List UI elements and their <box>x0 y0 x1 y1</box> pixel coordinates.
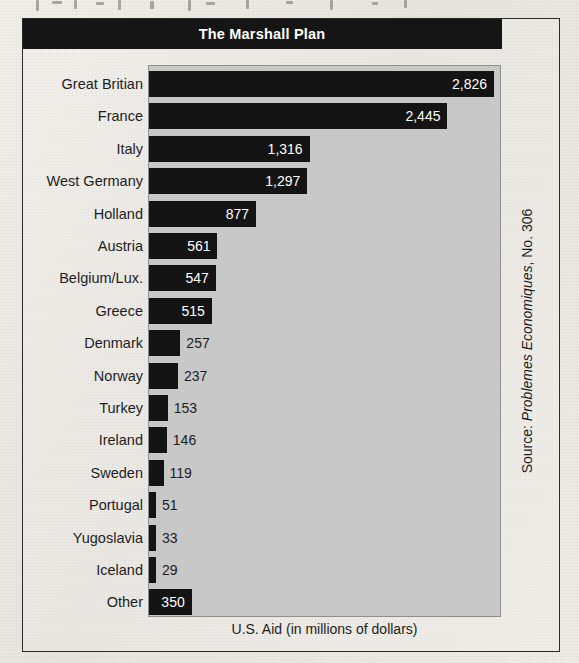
bar <box>149 557 156 583</box>
source-prefix: Source: <box>519 421 535 473</box>
scan-artifact <box>330 0 333 10</box>
bar-row: Norway237 <box>149 363 500 389</box>
bar-category-label: Greece <box>95 298 143 324</box>
bar: 1,316 <box>149 136 310 162</box>
bar: 1,297 <box>149 168 307 194</box>
bar-category-label: France <box>98 103 143 129</box>
bar-value-label: 547 <box>185 270 215 286</box>
bar-category-label: Iceland <box>96 557 143 583</box>
bar: 2,445 <box>149 103 447 129</box>
bar-value-label: 2,445 <box>405 108 447 124</box>
bar-row: Holland877 <box>149 201 500 227</box>
bar-category-label: West Germany <box>47 168 143 194</box>
bar-row: Great Britian2,826 <box>149 71 500 97</box>
bar-category-label: Austria <box>98 233 143 259</box>
scan-artifact <box>52 1 62 4</box>
bar <box>149 363 178 389</box>
x-axis-label: U.S. Aid (in millions of dollars) <box>148 621 501 637</box>
bar-row: Austria561 <box>149 233 500 259</box>
bar: 2,826 <box>149 71 494 97</box>
bar-category-label: Yugoslavia <box>73 525 143 551</box>
bar <box>149 492 156 518</box>
bar-category-label: Holland <box>94 201 143 227</box>
bar-category-label: Turkey <box>99 395 143 421</box>
bar <box>149 330 180 356</box>
bar-value-label: 153 <box>168 395 197 421</box>
bar-row: Other350 <box>149 589 500 615</box>
source-publication: Problemes Economiques <box>519 266 535 422</box>
bar-row: Turkey153 <box>149 395 500 421</box>
scan-artifact <box>372 2 378 5</box>
bar-value-label: 515 <box>182 303 212 319</box>
scan-artifact <box>246 0 249 9</box>
scan-artifact <box>404 0 407 8</box>
bar-category-label: Italy <box>116 136 143 162</box>
chart-title-bar: The Marshall Plan <box>23 19 502 49</box>
bar <box>149 427 167 453</box>
bar-row: Italy1,316 <box>149 136 500 162</box>
bar-category-label: Denmark <box>84 330 143 356</box>
scan-artifact <box>206 2 215 5</box>
scan-artifact-strip <box>0 0 579 17</box>
bar-row: Denmark257 <box>149 330 500 356</box>
bar-value-label: 257 <box>180 330 209 356</box>
bar-row: Portugal51 <box>149 492 500 518</box>
source-note-text: Source: Problemes Economiques, No. 306 <box>519 209 535 474</box>
bar-category-label: Sweden <box>91 460 143 486</box>
bar-value-label: 1,297 <box>265 173 307 189</box>
bar: 561 <box>149 233 217 259</box>
source-issue: , No. 306 <box>519 209 535 266</box>
bar-series: Great Britian2,826France2,445Italy1,316W… <box>149 66 500 616</box>
bar-category-label: Other <box>107 589 143 615</box>
bar-category-label: Ireland <box>99 427 143 453</box>
plot-area: Great Britian2,826France2,445Italy1,316W… <box>148 65 501 617</box>
bar-row: West Germany1,297 <box>149 168 500 194</box>
scan-artifact <box>118 0 121 10</box>
bar-value-label: 877 <box>226 206 256 222</box>
bar-row: Ireland146 <box>149 427 500 453</box>
bar-category-label: Norway <box>94 363 143 389</box>
bar-value-label: 119 <box>164 460 192 486</box>
figure-frame: The Marshall Plan Great Britian2,826Fran… <box>22 18 560 652</box>
bar: 877 <box>149 201 256 227</box>
bar <box>149 460 164 486</box>
bar-row: Iceland29 <box>149 557 500 583</box>
bar-value-label: 51 <box>156 492 178 518</box>
bar: 515 <box>149 298 212 324</box>
bar-value-label: 237 <box>178 363 207 389</box>
bar-value-label: 33 <box>156 525 178 551</box>
scan-artifact <box>188 0 191 11</box>
bar <box>149 525 156 551</box>
scan-artifact <box>36 0 39 11</box>
bar <box>149 395 168 421</box>
scan-artifact <box>74 0 77 9</box>
scan-artifact <box>286 1 293 4</box>
bar-value-label: 1,316 <box>268 141 310 157</box>
source-note: Source: Problemes Economiques, No. 306 <box>512 65 542 617</box>
bar-row: France2,445 <box>149 103 500 129</box>
bar-row: Yugoslavia33 <box>149 525 500 551</box>
scan-artifact <box>96 2 104 5</box>
bar: 350 <box>149 589 192 615</box>
bar-category-label: Belgium/Lux. <box>59 265 143 291</box>
bar-value-label: 561 <box>187 238 217 254</box>
bar-value-label: 2,826 <box>452 76 494 92</box>
bar: 547 <box>149 265 216 291</box>
bar-category-label: Portugal <box>89 492 143 518</box>
bar-value-label: 350 <box>161 594 191 610</box>
bar-row: Greece515 <box>149 298 500 324</box>
bar-row: Belgium/Lux.547 <box>149 265 500 291</box>
chart-title: The Marshall Plan <box>199 26 326 42</box>
scan-artifact <box>150 1 154 9</box>
bar-row: Sweden119 <box>149 460 500 486</box>
bar-category-label: Great Britian <box>62 71 143 97</box>
bar-value-label: 146 <box>167 427 196 453</box>
bar-value-label: 29 <box>156 557 178 583</box>
